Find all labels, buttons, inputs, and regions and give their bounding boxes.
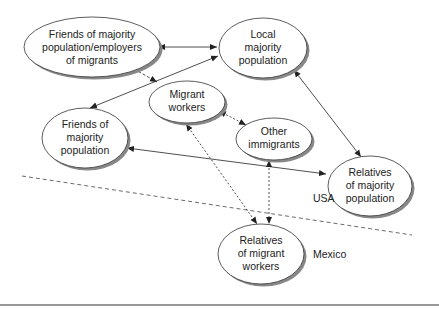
svg-text:population: population [346,192,395,204]
svg-text:workers: workers [168,101,206,113]
svg-text:Local: Local [250,28,275,40]
node-friends-employers: Friends of majority population/employers… [24,17,163,80]
region-label-mexico: Mexico [313,248,346,260]
svg-text:majority: majority [67,131,105,143]
svg-text:Other: Other [261,125,288,137]
network-diagram: Friends of majority population/employers… [0,0,439,309]
svg-text:Relatives: Relatives [239,234,282,246]
region-label-usa: USA [313,192,335,204]
node-relatives-migrant: Relatives of migrant workers [218,224,307,287]
svg-text:Friends of: Friends of [62,118,109,130]
svg-text:population/employers: population/employers [42,41,142,53]
svg-text:majority: majority [245,41,283,53]
svg-text:of migrant: of migrant [238,247,285,259]
node-friends-majority: Friends of majority population [42,108,131,171]
svg-text:population: population [239,54,288,66]
svg-text:of majority: of majority [346,179,395,191]
node-local-majority: Local majority population [219,18,310,81]
svg-text:workers: workers [242,260,280,272]
svg-text:Migrant: Migrant [169,88,204,100]
node-relatives-majority: Relatives of majority population [328,156,415,219]
node-migrant-workers: Migrant workers [149,81,228,126]
svg-text:Friends of majority: Friends of majority [49,28,136,40]
svg-text:Relatives: Relatives [348,166,391,178]
node-other-immigrants: Other immigrants [236,118,315,163]
svg-text:immigrants: immigrants [248,138,299,150]
svg-text:population: population [61,144,110,156]
svg-text:of migrants: of migrants [66,54,118,66]
